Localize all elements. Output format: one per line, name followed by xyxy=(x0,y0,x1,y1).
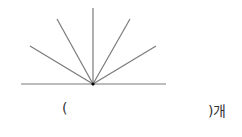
close-parenthesis-unit: )개 xyxy=(208,100,226,120)
answer-blank-row: ( )개 xyxy=(0,100,242,120)
ray-upper-left-line xyxy=(57,19,93,84)
ray-far-right-line xyxy=(93,46,156,84)
center-point xyxy=(91,82,94,85)
rays-group xyxy=(30,8,156,84)
ray-upper-right-line xyxy=(93,19,130,84)
ray-far-left-line xyxy=(30,46,93,84)
open-parenthesis: ( xyxy=(62,100,67,116)
